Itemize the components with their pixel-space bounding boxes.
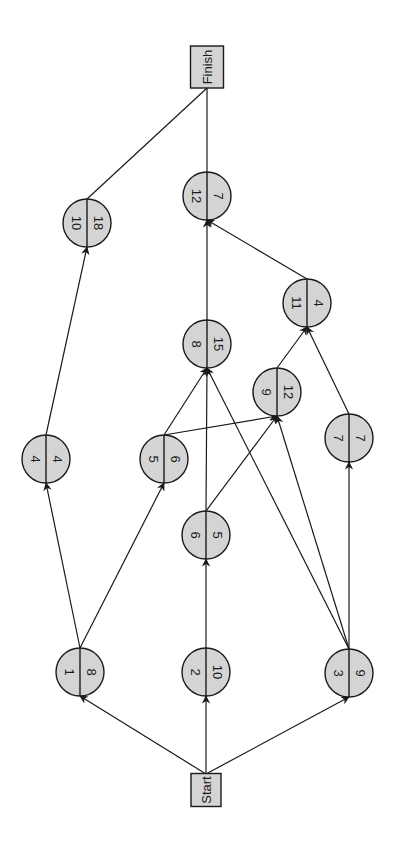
edge-4-to-10	[46, 247, 87, 435]
activity-node-1: 18	[56, 648, 104, 696]
node-label: 4	[28, 455, 43, 462]
node-duration: 7	[353, 434, 368, 441]
node-duration: 10	[210, 665, 225, 679]
node-label: 10	[69, 216, 84, 230]
edge-7-to-11	[307, 327, 349, 414]
node-duration: 9	[353, 669, 368, 676]
node-label: 11	[289, 296, 304, 310]
edge-6-to-8	[206, 368, 207, 511]
activity-node-8: 815	[183, 320, 231, 368]
activity-node-5: 56	[140, 435, 188, 483]
node-duration: 15	[211, 337, 226, 351]
node-label: 12	[189, 189, 204, 203]
activity-node-6: 65	[182, 511, 230, 559]
node-label: 8	[189, 340, 204, 347]
start-label: Start	[199, 776, 214, 804]
activity-node-4: 44	[22, 435, 70, 483]
activity-node-11: 114	[283, 279, 331, 327]
edge-1-to-5	[80, 483, 164, 648]
nodes: 1821039445665778159121018114127	[22, 172, 373, 697]
activity-node-3: 39	[325, 649, 373, 697]
edge-start-to-3	[206, 697, 349, 774]
node-label: 6	[188, 531, 203, 538]
activity-node-10: 1018	[63, 199, 111, 247]
node-duration: 6	[168, 455, 183, 462]
edge-5-to-8	[164, 368, 207, 435]
edge-11-to-12	[207, 220, 307, 279]
node-duration: 18	[91, 216, 106, 230]
node-label: 1	[62, 668, 77, 675]
finish-label: Finish	[200, 50, 215, 85]
node-duration: 4	[50, 455, 65, 462]
node-label: 9	[259, 388, 274, 395]
activity-node-12: 127	[183, 172, 231, 220]
node-duration: 5	[210, 531, 225, 538]
activity-node-7: 77	[325, 414, 373, 462]
edge-1-to-4	[46, 483, 80, 648]
activity-node-9: 912	[253, 368, 301, 416]
node-label: 7	[331, 434, 346, 441]
edge-9-to-11	[277, 327, 307, 368]
edge-start-to-1	[80, 696, 206, 774]
network-diagram: 1821039445665778159121018114127 StartFin…	[0, 0, 397, 842]
activity-node-2: 210	[182, 648, 230, 696]
node-duration: 12	[281, 385, 296, 399]
node-duration: 8	[84, 668, 99, 675]
node-duration: 7	[211, 192, 226, 199]
edge-6-to-9	[206, 416, 277, 511]
start-terminal: Start	[191, 774, 221, 807]
edge-5-to-9	[164, 416, 277, 435]
node-label: 5	[146, 455, 161, 462]
finish-terminal: Finish	[191, 46, 224, 88]
node-duration: 4	[311, 299, 326, 306]
node-label: 2	[188, 668, 203, 675]
node-label: 3	[331, 669, 346, 676]
